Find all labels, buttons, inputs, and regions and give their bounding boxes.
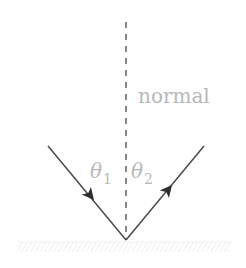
reflecting-surface [18,242,232,252]
incident-angle-label: θ1 [90,159,112,187]
incident-ray [48,146,126,240]
reflection-diagram: normal θ1 θ2 [0,0,246,268]
normal-label: normal [138,84,210,108]
reflected-angle-label: θ2 [131,159,153,187]
